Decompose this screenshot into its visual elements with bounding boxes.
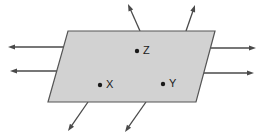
physics-diagram-figure: ZXY [0,0,265,138]
point-y-dot [161,82,165,86]
diagram-canvas: ZXY [0,0,265,138]
point-z-dot [135,49,139,53]
point-x-label: X [106,78,114,90]
point-y-label: Y [169,77,177,89]
point-x-dot [98,83,102,87]
charged-plane [48,31,215,102]
point-z-label: Z [143,44,150,56]
